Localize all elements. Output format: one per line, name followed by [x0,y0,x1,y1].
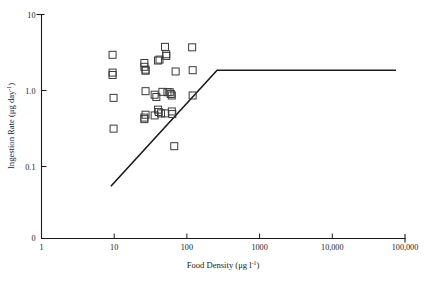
axis-titles: Food Density (μg l-1) Ingestion Rate (μg… [6,83,259,270]
data-point-marker [110,125,117,132]
x-tick-label: 1 [39,243,43,252]
y-tick-label: 0.1 [25,163,35,172]
x-tick-label: 1000 [251,243,267,252]
data-point-marker [109,71,116,78]
axes-frame [37,14,406,243]
x-tick-label: 100,000 [392,243,419,252]
x-tick-label: 10 [110,243,118,252]
data-point-marker [110,94,117,101]
data-point-marker [109,51,116,58]
x-axis-tick-labels: 110100100010,000100,000 [39,243,418,252]
fit-line [111,70,396,186]
x-tick-label: 10,000 [321,243,344,252]
data-point-marker [163,52,170,59]
y-axis-tick-labels: 0.11.0100 [25,11,35,243]
data-point-marker [189,44,196,51]
y-tick-label: 1.0 [25,87,35,96]
data-point-marker [189,67,196,74]
data-point-markers [109,43,196,149]
x-axis-title: Food Density (μg l-1) [187,260,260,270]
data-point-marker [142,88,149,95]
data-point-marker [163,51,170,58]
data-point-marker [151,91,158,98]
y-tick-label: 10 [27,11,35,20]
y-axis-ticks [42,91,47,167]
data-point-marker [109,69,116,76]
figure-panel: 0.11.0100 110100100010,000100,000 Food D… [0,0,427,282]
ingestion-rate-scatter-chart: 0.11.0100 110100100010,000100,000 Food D… [0,0,427,282]
y-origin-label: 0 [31,234,35,243]
functional-response-curve [111,70,396,186]
data-point-marker [172,68,179,75]
data-point-marker [162,43,169,50]
x-axis-ticks [114,234,332,239]
y-axis-title: Ingestion Rate (μg day-1) [6,83,16,169]
data-point-marker [168,108,175,115]
data-point-marker [171,143,178,150]
x-tick-label: 100 [181,243,193,252]
